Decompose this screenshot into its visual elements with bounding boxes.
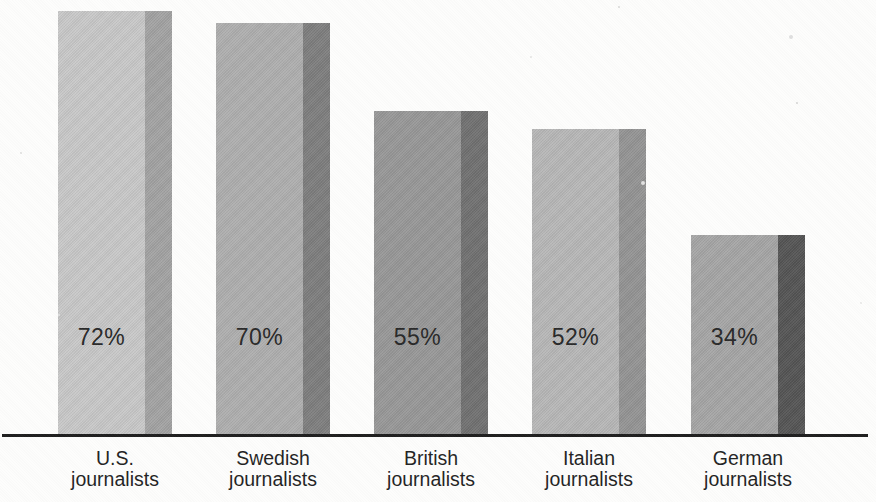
value-label-u-s-journalists: 72% <box>58 324 145 348</box>
value-label-german-journalists: 34% <box>691 324 778 348</box>
bar-front-british-journalists <box>374 111 461 436</box>
scan-noise-specks <box>618 6 620 8</box>
value-label-italian-journalists: 52% <box>532 324 619 348</box>
category-label-italian-journalists: Italianjournalists <box>509 448 669 489</box>
category-label-british-journalists: Britishjournalists <box>351 448 511 489</box>
bar-front-swedish-journalists <box>216 23 303 436</box>
value-label-swedish-journalists: 70% <box>216 324 303 348</box>
value-label-british-journalists: 55% <box>374 324 461 348</box>
bar-side-swedish-journalists <box>303 23 330 436</box>
category-label-u-s-journalists: U.S.journalists <box>35 448 195 489</box>
x-axis-line <box>2 434 868 437</box>
bar-side-german-journalists <box>778 235 805 436</box>
category-label-german-journalists: Germanjournalists <box>668 448 828 489</box>
bar-side-british-journalists <box>461 111 488 436</box>
bar-front-italian-journalists <box>532 129 619 436</box>
bar-front-u-s-journalists <box>58 11 145 436</box>
bar-side-u-s-journalists <box>145 11 172 436</box>
bar-chart: 72%70%55%52%34% U.S.journalistsSwedishjo… <box>0 0 876 502</box>
bar-side-italian-journalists <box>619 129 646 436</box>
category-label-swedish-journalists: Swedishjournalists <box>193 448 353 489</box>
